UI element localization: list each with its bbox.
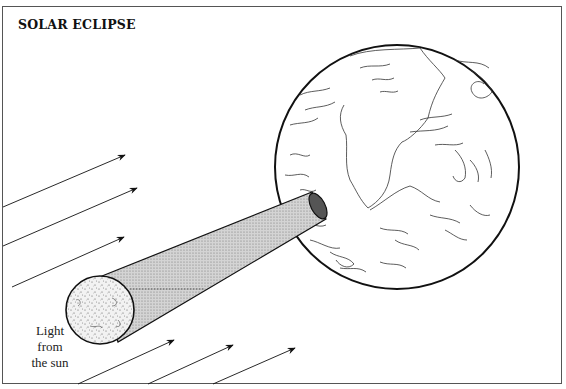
light-ray-arrow-icon: [3, 155, 125, 207]
diagram-title: SOLAR ECLIPSE: [18, 17, 136, 32]
label-line: Light: [22, 323, 78, 339]
light-ray-arrow-icon: [213, 348, 295, 384]
light-ray-arrow-icon: [3, 188, 137, 246]
light-source-label: Light from the sun: [22, 323, 78, 371]
light-ray-arrow-icon: [78, 340, 174, 384]
earth: [275, 45, 519, 289]
label-line: the sun: [22, 355, 78, 371]
light-ray-arrow-icon: [148, 345, 233, 384]
eclipse-diagram: [0, 0, 566, 389]
label-line: from: [22, 339, 78, 355]
